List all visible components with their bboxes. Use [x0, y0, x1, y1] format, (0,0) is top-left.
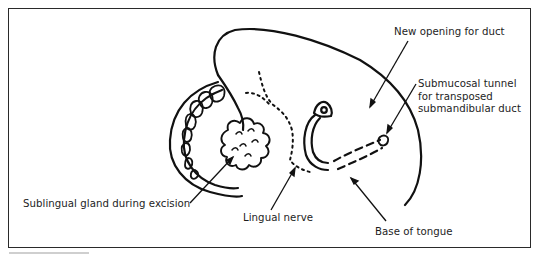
- duct-papilla-hole: [321, 107, 327, 113]
- label-new-opening: New opening for duct: [394, 26, 505, 39]
- tunnel-dashed-lower: [338, 148, 382, 169]
- duct-papilla: [314, 102, 332, 117]
- label-tunnel-line-3: submandibular duct: [418, 103, 521, 116]
- label-tunnel-line-1: Submucosal tunnel: [418, 78, 521, 91]
- duct-inner: [312, 118, 328, 163]
- label-tunnel-line-2: for transposed: [418, 91, 521, 104]
- label-submucosal-tunnel: Submucosal tunnel for transposed submand…: [418, 78, 521, 116]
- tunnel-dashed-upper: [334, 140, 380, 161]
- gland-lobule-marks: [232, 129, 258, 156]
- label-base-of-tongue: Base of tongue: [375, 226, 453, 239]
- label-lingual-nerve: Lingual nerve: [243, 212, 313, 225]
- label-sublingual-gland: Sublingual gland during excision: [23, 198, 190, 211]
- tongue-outline: [214, 29, 421, 205]
